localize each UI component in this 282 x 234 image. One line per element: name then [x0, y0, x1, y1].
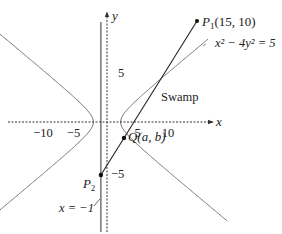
point-q — [122, 136, 126, 140]
equation-label: x² − 4y² = 5 — [214, 36, 275, 50]
p2-letter: P — [82, 176, 91, 191]
x-axis-label: x — [215, 114, 222, 129]
y-axis-label: y — [110, 8, 118, 23]
p2-subscript: 2 — [91, 183, 96, 193]
x-tick-label: −5 — [67, 126, 80, 140]
vertical-line-leader — [94, 199, 100, 206]
vertical-line-label: x = −1 — [58, 201, 94, 215]
p1-coords: (15, 10) — [214, 14, 255, 29]
y-tick-label: −5 — [111, 167, 124, 181]
p1-letter: P — [201, 14, 210, 29]
x-tick-label: −10 — [33, 126, 53, 140]
p2-label: P2 — [82, 176, 95, 193]
y-tick-labels: 5−5 — [111, 66, 124, 181]
y-tick-label: 5 — [118, 66, 124, 80]
point-p1 — [195, 19, 199, 23]
p1-label: P1(15, 10) — [201, 14, 256, 31]
point-p2 — [99, 173, 103, 177]
diagram-canvas: −10−5510 5−5 x y P1(15, 10) P2 Q(a, b) x… — [0, 0, 282, 234]
q-label: Q(a, b) — [128, 129, 166, 144]
equation-leader-line — [203, 44, 206, 46]
swamp-label: Swamp — [161, 90, 199, 104]
